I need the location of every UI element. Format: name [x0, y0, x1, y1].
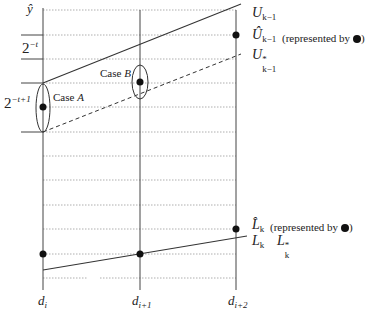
column-label-di2: di+2 — [228, 294, 248, 310]
case-b-label: Case B — [100, 68, 131, 79]
l-k-line — [43, 236, 247, 270]
dot-legend-icon — [341, 224, 349, 232]
dot-u-hat — [233, 32, 240, 39]
l-k-label: Lk — [252, 234, 264, 250]
step-label-2-neg-t: 2−t — [22, 40, 38, 56]
dot-l-hat — [233, 226, 240, 233]
diagram-canvas — [0, 0, 367, 314]
u-hat-k-minus-1-label: Ûk−1 — [252, 28, 276, 44]
step-label-2-neg-t-plus-1: 2−t+1 — [4, 95, 31, 111]
dot-di1-low — [137, 251, 144, 258]
dot-case-a — [40, 104, 47, 111]
vertical-lines — [43, 8, 236, 290]
u-k-minus-1-label: Uk−1 — [252, 6, 276, 22]
column-label-di1: di+1 — [132, 294, 152, 310]
u-hat-represented-note: (represented by) — [282, 33, 365, 44]
l-hat-k-label: L̂k — [252, 218, 264, 234]
l-star-k-label: L*k — [277, 234, 295, 248]
u-star-k-minus-1-label: U*k−1 — [252, 48, 278, 62]
y-hat-axis-label: ŷ — [27, 2, 33, 15]
u-k-1-line — [43, 4, 241, 83]
dot-di-low — [40, 251, 47, 258]
l-hat-represented-note: (represented by) — [270, 222, 353, 233]
case-a-label: Case A — [53, 92, 84, 103]
dot-legend-icon — [353, 35, 361, 43]
dot-case-b — [137, 79, 144, 86]
column-label-di: di — [38, 294, 47, 310]
